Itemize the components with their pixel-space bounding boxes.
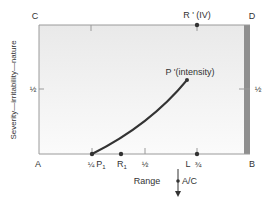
corner-label-d: D [249,11,256,21]
plot-area [39,25,244,154]
point-p-prime [185,78,189,82]
y-tick-label-half: ½ [30,85,37,94]
right-tick-label-half: ½ [255,85,262,94]
point-p1 [90,152,94,156]
x-tick-label-three-quarter: ¾ [195,160,202,169]
x-axis-label: Range [134,176,161,186]
corner-label-a: A [35,159,41,169]
pain-behaviour-diagram: C D A B Severity—irritability—nature ½ ½… [0,0,268,201]
point-label-p1: P1 [96,159,106,170]
point-label-l: L [185,159,190,169]
point-label-r1: R1 [117,159,128,170]
ac-label: A/C [182,176,198,186]
corner-label-b: B [249,159,255,169]
point-r-prime [195,23,199,27]
ac-point [176,179,180,183]
x-tick-label-quarter: ¼ [88,160,95,169]
point-l [195,152,199,156]
x-tick-label-half: ½ [142,160,149,169]
point-label-p-prime: P '(intensity) [165,67,214,77]
ac-arrowhead-icon [175,191,181,197]
corner-label-c: C [32,11,39,21]
point-label-r-prime: R ' (IV) [183,10,211,20]
point-r1 [119,152,123,156]
y-axis-label: Severity—irritability—nature [9,40,18,140]
